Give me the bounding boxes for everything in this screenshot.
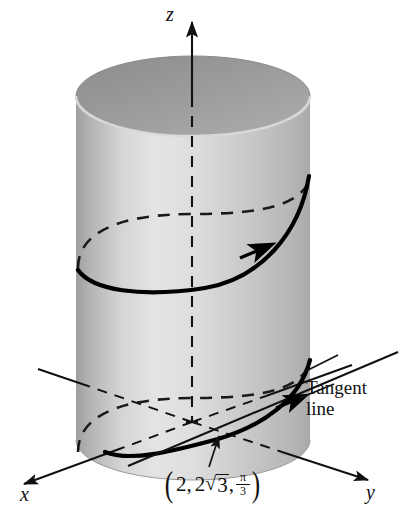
- coordinate-comma-2: ,: [229, 474, 234, 495]
- figure-canvas: [0, 0, 401, 518]
- tangent-line-label: Tangent line: [306, 378, 367, 419]
- y-axis-solid-segment: [282, 452, 368, 480]
- point-coordinate-label: ( 2 , 2 √ 3 , π 3 ): [163, 470, 262, 499]
- square-root-icon: √ 3: [205, 473, 228, 496]
- coordinate-x-value: 2: [176, 474, 187, 495]
- axis-label-y: y: [366, 482, 375, 502]
- axis-label-z: z: [166, 4, 174, 24]
- axis-label-x: x: [20, 484, 29, 504]
- coordinate-y-coefficient: 2: [195, 474, 206, 495]
- coordinate-comma-1: ,: [187, 474, 192, 495]
- coordinate-y-radicand: 3: [216, 474, 229, 496]
- radical-sign: √: [205, 473, 216, 493]
- coordinate-z-fraction: π 3: [238, 471, 248, 497]
- tangent-label-line2: line: [306, 399, 367, 420]
- close-paren: ): [252, 470, 260, 499]
- tangent-label-line1: Tangent: [306, 378, 367, 399]
- coordinate-terms: 2 , 2 √ 3 , π 3: [174, 471, 250, 497]
- fraction-numerator: π: [238, 471, 248, 483]
- math-figure-cylinder-helix: z x y Tangent line ( 2 , 2 √ 3 , π 3 ): [0, 0, 401, 518]
- fraction-denominator: 3: [236, 484, 250, 497]
- open-paren: (: [165, 470, 173, 499]
